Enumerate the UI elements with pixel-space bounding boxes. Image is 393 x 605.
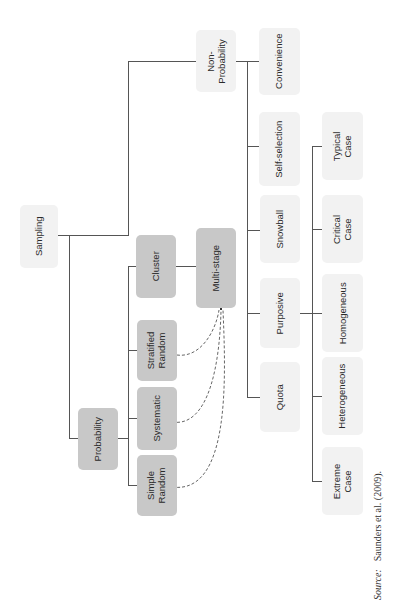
node-stratified-random: Stratified Random (137, 320, 177, 381)
node-label: Simple Random (146, 468, 167, 504)
node-extreme-case: Extreme Case (322, 447, 363, 515)
node-label: Non- Probability (206, 39, 227, 83)
node-heterogeneous: Heterogeneous (322, 357, 363, 435)
node-simple-random: Simple Random (137, 455, 177, 516)
node-cluster: Cluster (136, 235, 176, 298)
node-snowball: Snowball (260, 195, 300, 263)
node-multi-stage: Multi-stage (196, 228, 236, 308)
node-label: Stratified Random (147, 332, 168, 370)
node-quota: Quota (260, 362, 300, 432)
node-label: Probability (93, 417, 104, 461)
node-label: Typical Case (332, 131, 353, 161)
node-label: Homogeneous (337, 282, 348, 344)
node-probability: Probability (78, 408, 118, 470)
node-label: Extreme Case (332, 463, 353, 498)
node-label: Convenience (274, 34, 285, 89)
node-label: Systematic (152, 395, 163, 441)
node-label: Purposive (275, 292, 286, 334)
node-homogeneous: Homogeneous (322, 274, 363, 352)
node-label: Heterogeneous (337, 364, 348, 429)
node-sampling: Sampling (20, 205, 58, 268)
node-non-probability: Non- Probability (196, 30, 236, 92)
node-label: Sampling (34, 217, 45, 257)
node-purposive: Purposive (260, 278, 300, 348)
node-label: Self-selection (274, 120, 285, 177)
node-label: Critical Case (332, 214, 353, 243)
node-label: Quota (275, 384, 286, 410)
node-self-selection: Self-selection (259, 112, 300, 186)
node-systematic: Systematic (137, 387, 177, 450)
source-text: Saunders et al. (2009). (372, 471, 383, 561)
node-critical-case: Critical Case (322, 195, 363, 263)
node-typical-case: Typical Case (322, 112, 363, 180)
node-label: Multi-stage (211, 245, 222, 291)
node-label: Snowball (275, 210, 286, 249)
sampling-diagram: Sampling Probability Non- Probability Cl… (0, 0, 393, 605)
source-caption: Source:Saunders et al. (2009). (372, 471, 383, 600)
source-label: Source: (372, 569, 383, 600)
node-convenience: Convenience (259, 28, 300, 95)
node-label: Cluster (151, 251, 162, 281)
